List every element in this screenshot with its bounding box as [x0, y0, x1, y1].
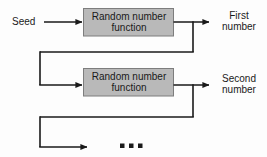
- continuation-ellipsis-icon: [120, 144, 143, 149]
- stage-2-box-label-line-2: function: [83, 82, 175, 94]
- stage-2-output-label-line-1: Second: [213, 73, 265, 85]
- stage-2-output-label-line-2: number: [213, 84, 265, 96]
- stage-1-output-label-line-1: First: [213, 10, 265, 22]
- seed-label: Seed: [12, 16, 35, 28]
- random-number-chain-diagram: Seed Random number function First number…: [0, 0, 267, 157]
- stage-1-output-label-line-2: number: [213, 21, 265, 33]
- stage-1-box-label-line-1: Random number: [83, 11, 175, 23]
- stage-2-box-label-line-1: Random number: [83, 71, 175, 83]
- stage-1-box-label-line-2: function: [83, 22, 175, 34]
